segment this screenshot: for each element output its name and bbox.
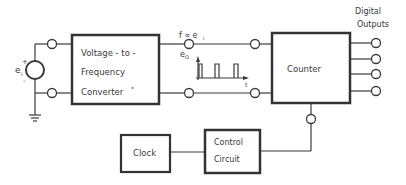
terminal-icon	[251, 40, 260, 49]
source-minus: -	[23, 77, 26, 85]
control-circuit-block	[205, 130, 260, 173]
vf-label-line1: Voltage - to -	[81, 48, 136, 58]
terminal-icon	[185, 40, 194, 49]
block-diagram: Voltage - to - Frequency Converter * Cou…	[0, 0, 406, 185]
vf-label-line3: Converter	[81, 87, 124, 97]
input-terminal-icon	[48, 89, 57, 98]
outputs-label-line1: Digital	[355, 7, 381, 16]
output-signal-sub: O	[185, 54, 189, 60]
input-terminal-icon	[48, 40, 57, 49]
output-terminal-icon	[372, 55, 381, 64]
output-terminal-icon	[372, 87, 381, 96]
voltage-source-icon	[26, 61, 44, 79]
time-axis-label: t	[245, 81, 248, 88]
output-terminal-icon	[372, 70, 381, 79]
clock-label: Clock	[133, 148, 156, 158]
terminal-icon	[307, 115, 316, 124]
source-plus: +	[22, 58, 28, 66]
counter-label: Counter	[287, 64, 321, 74]
freq-relation-label: f ∝ e	[179, 31, 198, 40]
control-label-line1: Control	[214, 138, 243, 147]
terminal-icon	[185, 89, 194, 98]
output-terminal-icon	[372, 39, 381, 48]
terminal-icon	[251, 89, 260, 98]
control-label-line2: Circuit	[214, 155, 240, 164]
freq-relation-sub: i	[203, 35, 204, 41]
outputs-label-line2: Outputs	[357, 20, 389, 29]
vf-footnote-mark: *	[131, 85, 134, 92]
vf-label-line2: Frequency	[81, 67, 125, 77]
